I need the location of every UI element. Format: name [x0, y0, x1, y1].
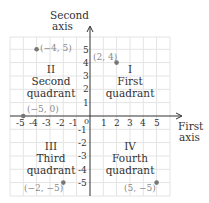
point-label: (2, 4): [93, 52, 117, 62]
x-tick: -4: [29, 118, 38, 128]
point-neg5-0: [21, 114, 26, 119]
y-tick: 1: [83, 98, 89, 108]
quadrant-name-line1: First: [117, 75, 143, 87]
quadrant-name-line1: Second: [31, 75, 70, 87]
quadrant-II: II Second quadrant: [27, 63, 77, 99]
y-tick: -3: [78, 151, 87, 161]
y-tick: 3: [83, 71, 89, 81]
point-label: (5, −5): [124, 183, 156, 193]
quadrant-name-line1: Third: [37, 152, 66, 164]
quadrant-numeral: III: [45, 140, 57, 152]
y-tick: 2: [83, 84, 89, 94]
quadrant-name-line2: quadrant: [106, 164, 156, 176]
quadrant-name-line1: Fourth: [112, 152, 148, 164]
point-label: (−4, 5): [40, 43, 72, 53]
quadrant-numeral: I: [128, 63, 132, 75]
quadrant-I: I First quadrant: [106, 63, 156, 99]
quadrant-name-line2: quadrant: [106, 87, 156, 99]
y-tick: -4: [78, 165, 87, 175]
quadrant-IV: IV Fourth quadrant: [106, 140, 156, 176]
quadrant-numeral: II: [47, 63, 55, 75]
x-tick: -2: [56, 118, 65, 128]
y-tick: -2: [78, 138, 87, 148]
y-tick: 5: [83, 45, 89, 55]
quadrant-name-line2: quadrant: [27, 87, 77, 99]
horizontal-axis-label-line2: axis: [179, 131, 200, 143]
y-tick: -1: [78, 125, 87, 135]
quadrant-III: III Third quadrant: [27, 140, 77, 176]
x-tick: 5: [154, 118, 160, 128]
x-tick: 4: [140, 118, 146, 128]
point-label: (−5, 0): [27, 104, 59, 114]
x-tick: 3: [127, 118, 133, 128]
quadrant-name-line2: quadrant: [27, 164, 77, 176]
y-tick: 4: [83, 58, 89, 68]
x-tick: -1: [69, 118, 78, 128]
x-tick: -3: [42, 118, 51, 128]
x-tick: 1: [101, 118, 107, 128]
x-tick: 2: [114, 118, 120, 128]
coordinate-plane: Second axis First axis 0 -5 -4 -3 -2 -1 …: [0, 0, 209, 203]
point-neg4-5: [34, 47, 39, 52]
y-tick: -5: [78, 178, 87, 188]
x-tick: -5: [16, 118, 25, 128]
quadrant-numeral: IV: [124, 140, 136, 152]
point-label: (−2, −5): [24, 183, 63, 193]
vertical-axis-label-line2: axis: [52, 20, 73, 32]
